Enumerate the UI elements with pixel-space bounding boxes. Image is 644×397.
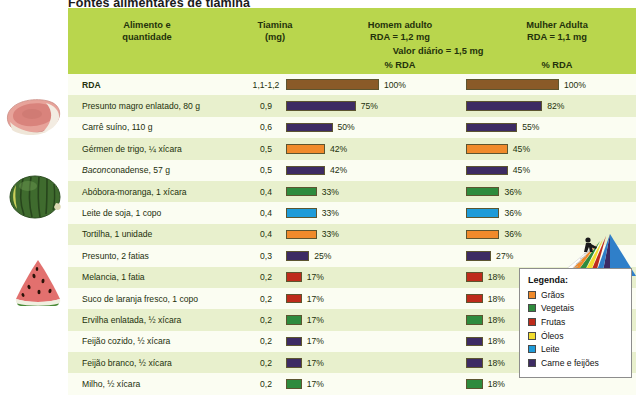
bar-men: [286, 101, 356, 111]
bar-women: [466, 166, 508, 176]
pork-chop-photo: [2, 94, 64, 140]
legend-label: Vegetais: [541, 303, 574, 313]
cell-food-name: Leite de soja, 1 copo: [82, 202, 242, 223]
column-header-woman: Mulher Adulta RDA = 1,1 mg: [478, 20, 636, 43]
cell-food-name: RDA: [82, 74, 242, 95]
bar-men-label: 17%: [307, 336, 324, 346]
bar-men-group: 42%: [286, 160, 458, 181]
bar-men: [286, 208, 317, 218]
bar-men-label: 17%: [307, 315, 324, 325]
table-row: Leite de soja, 1 copo0,433%36%: [68, 202, 636, 223]
bar-women-label: 36%: [504, 208, 521, 218]
bar-men-group: 17%: [286, 352, 458, 373]
legend-label: Óleos: [541, 331, 563, 341]
bar-women-label: 45%: [513, 144, 530, 154]
bar-men: [286, 79, 379, 90]
cell-food-name: Gérmen de trigo, ¼ xícara: [82, 138, 242, 159]
cell-food-name: Abóbora-moranga, 1 xícara: [82, 181, 242, 202]
column-header-man: Homem adulto RDA = 1,2 mg: [320, 20, 480, 43]
bar-men: [286, 315, 302, 325]
table-row: Presunto magro enlatado, 80 g0,975%82%: [68, 95, 636, 116]
bar-women-label: 45%: [513, 165, 530, 175]
bar-women-label: 18%: [488, 379, 505, 389]
bar-women-label: 36%: [504, 229, 521, 239]
legend-item: Frutas: [528, 315, 631, 329]
legend-box: Legenda: GrãosVegetaisFrutasÓleosLeiteCa…: [519, 268, 632, 378]
cell-food-name: Presunto magro enlatado, 80 g: [82, 95, 242, 116]
bar-men-group: 33%: [286, 181, 458, 202]
table-header: Alimento e quantidade Tiamina (mg) Homem…: [68, 8, 636, 74]
bar-women: [466, 358, 483, 368]
squash-photo: [6, 170, 64, 222]
bar-men: [286, 379, 302, 389]
bar-men-label: 75%: [361, 101, 378, 111]
column-header-thiamine-line1: Tiamina: [258, 20, 293, 30]
bar-men: [286, 251, 309, 261]
legend-item: Leite: [528, 342, 631, 356]
bar-men-group: 50%: [286, 117, 458, 138]
column-header-thiamine-line2: (mg): [265, 32, 285, 42]
bar-women-label: 18%: [488, 358, 505, 368]
bar-men-group: 17%: [286, 309, 458, 330]
bar-men: [286, 144, 325, 154]
bar-women: [466, 208, 499, 218]
bar-women-group: 45%: [466, 138, 638, 159]
bar-men: [286, 230, 317, 240]
legend-swatch: [528, 291, 536, 299]
bar-women: [466, 272, 483, 282]
bar-women-label: 18%: [488, 272, 505, 282]
legend-item: Óleos: [528, 329, 631, 343]
bar-men-label: 33%: [322, 208, 339, 218]
bar-women: [466, 294, 483, 304]
bar-men: [286, 337, 302, 347]
legend-title: Legenda:: [528, 275, 631, 285]
bar-women: [466, 101, 542, 111]
daily-value-note: Valor diário = 1,5 mg: [238, 46, 638, 58]
legend-label: Grãos: [541, 290, 564, 300]
bar-men: [286, 166, 325, 176]
bar-women: [466, 144, 508, 154]
bar-women-label: 18%: [488, 294, 505, 304]
bar-women-group: 36%: [466, 181, 638, 202]
bar-women-label: 55%: [522, 122, 539, 132]
legend-item: Carne e feijões: [528, 356, 631, 370]
bar-men-label: 42%: [330, 144, 347, 154]
bar-men: [286, 187, 317, 197]
cell-food-name: Feijão cozido, ½ xícara: [82, 331, 242, 352]
bar-women-label: 18%: [488, 315, 505, 325]
bar-men: [286, 123, 333, 133]
bar-men-label: 50%: [338, 122, 355, 132]
column-header-woman-line2: RDA = 1,1 mg: [527, 32, 587, 42]
bar-men-group: 17%: [286, 331, 458, 352]
bar-women-label: 36%: [504, 187, 521, 197]
bar-men-label: 17%: [307, 294, 324, 304]
bar-women: [466, 123, 517, 133]
column-header-man-line1: Homem adulto: [368, 20, 433, 30]
bar-women: [466, 187, 499, 197]
legend-swatch: [528, 345, 536, 353]
bar-women-group: 45%: [466, 160, 638, 181]
bar-women-group: 55%: [466, 117, 638, 138]
column-header-food-line2: quantidade: [122, 32, 172, 42]
legend-label: Carne e feijões: [541, 358, 599, 368]
cell-food-name: Presunto, 2 fatias: [82, 245, 242, 266]
bar-women-label: 18%: [488, 336, 505, 346]
column-header-pct-man: % RDA: [320, 60, 480, 72]
bar-men-group: 33%: [286, 224, 458, 245]
bar-men-group: 17%: [286, 288, 458, 309]
table-row: Carrê suíno, 110 g0,650%55%: [68, 117, 636, 138]
table-row: Abóbora-moranga, 1 xícara0,433%36%: [68, 181, 636, 202]
bar-men: [286, 272, 302, 282]
bar-men-group: 17%: [286, 267, 458, 288]
legend-swatch: [528, 318, 536, 326]
bar-men-label: 100%: [384, 80, 406, 90]
bar-men-group: 33%: [286, 202, 458, 223]
bar-women-group: 100%: [466, 74, 638, 95]
column-header-woman-line1: Mulher Adulta: [526, 20, 588, 30]
bar-women: [466, 315, 483, 325]
legend-swatch: [528, 332, 536, 340]
legend-label: Leite: [541, 344, 560, 354]
bar-women: [466, 379, 483, 389]
bar-men: [286, 358, 302, 368]
column-header-pct-woman: % RDA: [478, 60, 636, 72]
